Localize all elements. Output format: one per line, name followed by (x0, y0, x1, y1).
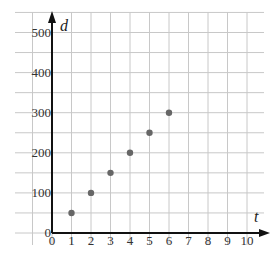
y-tick-label: 0 (45, 225, 52, 240)
y-tick-label: 300 (32, 105, 52, 120)
x-axis-arrow-icon (259, 229, 270, 237)
x-tick-label: 10 (241, 233, 254, 248)
data-point (166, 110, 172, 116)
x-tick-label: 6 (166, 233, 173, 248)
y-tick-label: 500 (32, 25, 52, 40)
x-tick-label: 4 (127, 233, 134, 248)
x-tick-label: 5 (146, 233, 153, 248)
y-tick-label: 100 (32, 185, 52, 200)
data-point (146, 130, 152, 136)
data-point (68, 210, 74, 216)
y-tick-label: 200 (32, 145, 52, 160)
axes (48, 11, 270, 237)
data-point (127, 150, 133, 156)
x-tick-label: 9 (224, 233, 231, 248)
data-points (68, 110, 172, 217)
x-tick-label: 2 (88, 233, 95, 248)
x-tick-label: 1 (68, 233, 75, 248)
data-point (107, 170, 113, 176)
x-axis-label: t (254, 208, 259, 225)
tick-labels: 0123456789100100200300400500 (32, 25, 254, 249)
scatter-chart: 0123456789100100200300400500 t d (0, 0, 274, 260)
data-point (88, 190, 94, 196)
y-axis-label: d (60, 17, 69, 34)
y-tick-label: 400 (32, 65, 52, 80)
x-tick-label: 3 (107, 233, 114, 248)
x-tick-label: 7 (185, 233, 192, 248)
x-tick-label: 8 (205, 233, 212, 248)
